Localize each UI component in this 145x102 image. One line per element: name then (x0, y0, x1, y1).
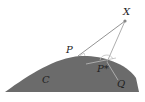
label-x: X (122, 6, 131, 17)
point-x (123, 19, 126, 22)
diagram-canvas: X P P* Q C (0, 0, 145, 102)
segment-x-p (78, 21, 125, 56)
angle-arc-p (80, 53, 85, 56)
label-p: P (65, 44, 73, 55)
label-pstar: P* (96, 63, 109, 74)
label-q: Q (117, 78, 125, 89)
label-c: C (42, 74, 50, 85)
